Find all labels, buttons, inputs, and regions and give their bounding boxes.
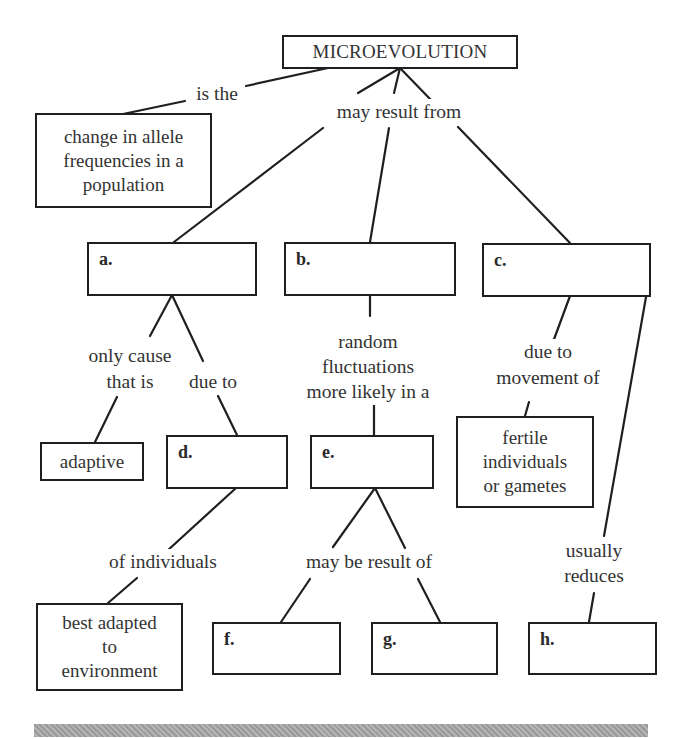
blank-label-h: h. — [540, 629, 555, 650]
blank-box-f[interactable]: f. — [212, 622, 341, 675]
root-label: MICROEVOLUTION — [313, 40, 488, 64]
concept-best-adapted: best adapted to environment — [36, 603, 183, 691]
link-label-only-cause-2: that is — [94, 369, 166, 395]
link-label-may-result-from: may result from — [318, 99, 480, 125]
link-label-of-individuals: of individuals — [92, 549, 234, 575]
link-label-only-cause-1: only cause — [76, 343, 184, 369]
blank-box-g[interactable]: g. — [371, 622, 498, 675]
adaptive-label: adaptive — [60, 450, 124, 474]
link-label-random-3: more likely in a — [288, 379, 448, 405]
link-label-usually-2: reduces — [552, 563, 636, 589]
best-adapted-line-3: environment — [61, 659, 157, 683]
blank-label-d: d. — [178, 442, 193, 463]
root-node-microevolution: MICROEVOLUTION — [282, 35, 518, 69]
blank-label-a: a. — [99, 249, 113, 270]
blank-label-b: b. — [296, 249, 311, 270]
fertile-line-2: individuals — [483, 450, 567, 474]
fertile-line-1: fertile — [502, 426, 547, 450]
blank-label-g: g. — [383, 629, 397, 650]
blank-label-f: f. — [224, 629, 235, 650]
link-label-due-to-c-2: movement of — [486, 365, 610, 391]
definition-line-3: population — [83, 173, 164, 197]
blank-box-d[interactable]: d. — [166, 435, 288, 489]
link-label-random-1: random — [318, 329, 418, 355]
blank-box-b[interactable]: b. — [284, 242, 456, 296]
blank-box-e[interactable]: e. — [310, 435, 434, 489]
blank-box-h[interactable]: h. — [528, 622, 657, 675]
link-label-is-the: is the — [189, 81, 245, 107]
blank-box-a[interactable]: a. — [87, 242, 257, 296]
blank-label-e: e. — [322, 442, 335, 463]
link-label-may-be-result-of: may be result of — [287, 549, 451, 575]
blank-label-c: c. — [494, 250, 507, 271]
link-label-due-to-c-1: due to — [505, 339, 591, 365]
fertile-line-3: or gametes — [484, 474, 567, 498]
best-adapted-line-2: to — [102, 635, 117, 659]
definition-line-1: change in allele — [64, 125, 183, 149]
link-label-usually-1: usually — [556, 538, 632, 564]
concept-adaptive: adaptive — [40, 442, 144, 481]
best-adapted-line-1: best adapted — [62, 611, 156, 635]
link-label-random-2: fluctuations — [303, 354, 433, 380]
blank-box-c[interactable]: c. — [482, 243, 651, 297]
concept-fertile: fertile individuals or gametes — [456, 416, 594, 508]
link-label-due-to-a: due to — [180, 369, 246, 395]
concept-definition: change in allele frequencies in a popula… — [35, 113, 212, 208]
definition-line-2: frequencies in a — [63, 149, 183, 173]
footer-divider-bar — [34, 724, 648, 737]
concept-map: MICROEVOLUTION change in allele frequenc… — [0, 0, 686, 739]
